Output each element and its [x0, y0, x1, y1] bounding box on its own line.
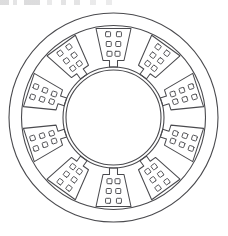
slot-conductor: [33, 145, 39, 151]
slot-outline: [96, 29, 131, 68]
slot-conductor: [49, 130, 55, 136]
slot-conductor: [71, 176, 78, 183]
stator-slot-group: [23, 29, 203, 207]
slot-outline: [129, 148, 180, 200]
slot-conductor: [170, 91, 176, 97]
slot-conductor: [115, 51, 120, 56]
slot-conductor: [179, 142, 185, 148]
slot-conductor: [116, 32, 121, 37]
slot-conductor: [151, 65, 158, 72]
stator-yoke-circle: [22, 26, 206, 210]
slot-conductor: [106, 42, 111, 47]
slot-conductor: [157, 57, 164, 64]
slot-conductor: [76, 168, 83, 175]
slot-conductor: [39, 133, 45, 139]
slot-conductor: [69, 65, 76, 72]
slot-conductor: [106, 32, 111, 37]
slot-conductor: [42, 87, 48, 93]
slot-conductor: [63, 57, 70, 64]
slot-conductor: [155, 185, 162, 192]
slot-conductor: [191, 94, 197, 100]
slot-conductor: [63, 171, 70, 178]
slot-conductor: [115, 179, 120, 184]
slot-conductor: [157, 171, 164, 178]
slot-conductor: [107, 51, 112, 56]
stator-slot: [96, 29, 131, 68]
stator-slot: [47, 35, 98, 87]
slot-conductor: [163, 178, 170, 185]
slot-conductor: [29, 94, 35, 100]
slot-conductor: [65, 185, 72, 192]
slot-conductor: [49, 98, 55, 104]
slot-conductor: [76, 60, 83, 67]
slot-conductor: [51, 91, 57, 97]
slot-conductor: [172, 98, 178, 104]
slot-conductor: [188, 145, 194, 151]
slot-conductor: [144, 60, 151, 67]
slot-conductor: [116, 189, 121, 194]
slot-outline: [129, 35, 180, 87]
slot-conductor: [149, 52, 156, 59]
slot-conductor: [155, 43, 162, 50]
slot-conductor: [151, 163, 158, 170]
slot-conductor: [69, 163, 76, 170]
bore-circle-group: [63, 67, 164, 168]
slot-conductor: [65, 43, 72, 50]
slot-outline: [47, 148, 98, 200]
slot-conductor: [39, 96, 45, 102]
slot-conductor: [51, 138, 57, 144]
slot-conductor: [172, 130, 178, 136]
slot-conductor: [179, 87, 185, 93]
slot-conductor: [182, 133, 188, 139]
slot-conductor: [170, 138, 176, 144]
stator-cross-section-drawing: [0, 0, 228, 236]
slot-conductor: [116, 42, 121, 47]
slot-conductor: [191, 135, 197, 141]
bore-outer-circle: [63, 67, 164, 168]
stator-slot: [129, 148, 180, 200]
slot-conductor: [107, 179, 112, 184]
slot-conductor: [149, 176, 156, 183]
slot-conductor: [29, 135, 35, 141]
outer-circle-group: [9, 13, 218, 222]
stator-slot: [47, 148, 98, 200]
slot-conductor: [116, 198, 121, 203]
slot-conductor: [163, 50, 170, 57]
slot-conductor: [182, 96, 188, 102]
slot-conductor: [71, 52, 78, 59]
figure-canvas: [0, 0, 228, 236]
slot-conductor: [144, 168, 151, 175]
stator-slot: [96, 168, 131, 207]
outer-housing-circle: [9, 13, 218, 222]
stator-slot: [129, 35, 180, 87]
slot-outline: [96, 168, 131, 207]
slot-conductor: [57, 50, 64, 57]
slot-conductor: [33, 83, 39, 89]
slot-conductor: [106, 198, 111, 203]
slot-conductor: [188, 83, 194, 89]
slot-conductor: [42, 142, 48, 148]
slot-conductor: [106, 189, 111, 194]
bore-inner-circle: [66, 70, 161, 165]
slot-conductor: [57, 178, 64, 185]
slot-outline: [47, 35, 98, 87]
